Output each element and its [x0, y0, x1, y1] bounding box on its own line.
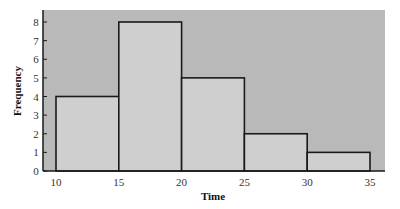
- y-tick-label: 4: [33, 91, 39, 103]
- x-ticks: 101520253035: [51, 176, 377, 188]
- y-ticks: 012345678: [33, 16, 47, 177]
- y-tick-label: 6: [33, 53, 39, 65]
- x-tick-label: 30: [302, 176, 314, 188]
- histogram-bar: [56, 97, 119, 172]
- y-tick-label: 5: [33, 72, 39, 84]
- histogram-chart: 012345678 101520253035 Time Frequency: [0, 0, 400, 209]
- histogram-bar: [307, 152, 370, 171]
- x-axis-label: Time: [201, 190, 225, 202]
- x-tick-label: 15: [113, 176, 125, 188]
- y-tick-label: 1: [33, 146, 39, 158]
- x-tick-label: 25: [239, 176, 251, 188]
- x-tick-label: 10: [51, 176, 63, 188]
- y-tick-label: 0: [33, 165, 39, 177]
- y-tick-label: 2: [33, 128, 39, 140]
- y-axis-label: Frequency: [11, 66, 23, 116]
- y-tick-label: 3: [33, 109, 39, 121]
- histogram-bar: [182, 78, 245, 171]
- y-tick-label: 7: [33, 35, 39, 47]
- histogram-bar: [119, 22, 182, 171]
- y-tick-label: 8: [33, 16, 39, 28]
- x-tick-label: 20: [176, 176, 188, 188]
- x-tick-label: 35: [365, 176, 377, 188]
- histogram-bar: [244, 134, 307, 171]
